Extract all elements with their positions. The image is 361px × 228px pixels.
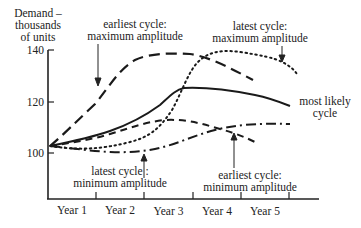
x-label-year5: Year 5	[241, 205, 289, 217]
y-tick-label-120: 120	[14, 96, 44, 108]
annotation-earliest-min-line1: earliest cycle:	[198, 169, 302, 181]
x-label-year2: Year 2	[96, 204, 144, 216]
arrow-head-earliest-max	[95, 78, 101, 86]
annotation-latest-max-line2: maximum amplitude	[200, 32, 320, 44]
y-axis-title: Demand – thousands of units	[8, 7, 68, 43]
arrow-head-earliest-min	[231, 133, 237, 140]
annotation-most-likely-line2: cycle	[292, 107, 358, 119]
annotation-latest-min-line1: latest cycle :	[68, 165, 172, 177]
annotation-most-likely-line1: most likely	[292, 95, 358, 107]
annotation-earliest-max: earliest cycle: maximum amplitude	[80, 18, 190, 42]
x-label-year3: Year 3	[144, 205, 193, 217]
annotation-latest-min: latest cycle : minimum amplitude	[68, 165, 172, 189]
annotation-earliest-max-line1: earliest cycle:	[80, 18, 190, 30]
annotation-earliest-min-line2: minimum amplitude	[198, 181, 302, 193]
series-most-likely	[50, 88, 290, 146]
annotation-earliest-max-line2: maximum amplitude	[80, 30, 190, 42]
annotation-most-likely: most likely cycle	[292, 95, 358, 119]
y-axis-title-line3: of units	[8, 31, 68, 43]
annotation-arrows	[95, 44, 285, 178]
y-tick-label-100: 100	[14, 147, 44, 159]
series	[50, 51, 298, 152]
series-latest-max	[50, 51, 298, 149]
annotation-latest-max: latest cycle: maximum amplitude	[200, 20, 320, 44]
series-earliest-min	[50, 120, 257, 146]
annotation-latest-max-line1: latest cycle:	[200, 20, 320, 32]
annotation-latest-min-line2: minimum amplitude	[68, 177, 172, 189]
x-label-year1: Year 1	[48, 204, 96, 216]
y-axis-title-line1: Demand –	[8, 7, 68, 19]
y-axis-title-line2: thousands	[8, 19, 68, 31]
annotation-earliest-min: earliest cycle: minimum amplitude	[198, 169, 302, 193]
y-tick-label-140: 140	[14, 44, 44, 56]
x-label-year4: Year 4	[193, 205, 241, 217]
demand-cycle-chart: Demand – thousands of units 140 120 100 …	[0, 0, 361, 228]
arrow-head-latest-min	[141, 154, 147, 161]
